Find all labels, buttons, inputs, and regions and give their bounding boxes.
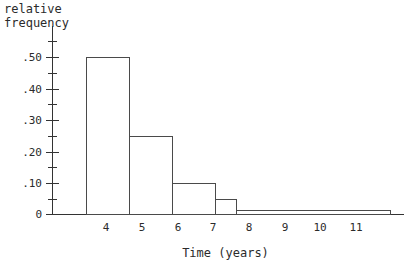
plot-area <box>0 0 409 268</box>
histogram-chart: relativefrequency .50 .40 .30 .20 .10 0 … <box>0 0 409 268</box>
bars <box>87 58 391 215</box>
x-axis-title-text: Time (years) <box>182 246 269 260</box>
x-axis-title: Time (years) <box>0 246 409 260</box>
histogram-bar-2 <box>130 136 173 215</box>
histogram-bar-1 <box>87 58 130 215</box>
histogram-bar-4 <box>216 199 237 215</box>
histogram-bar-3 <box>173 184 216 215</box>
histogram-bar-5 <box>237 211 391 215</box>
